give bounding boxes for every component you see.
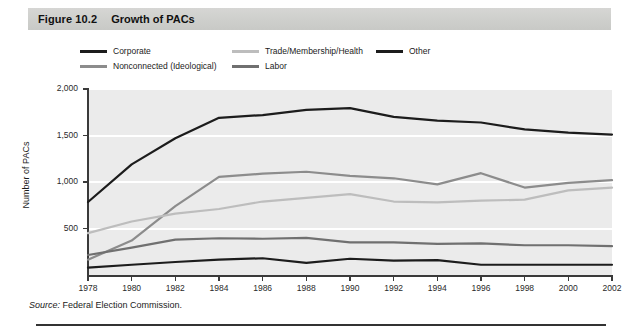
x-tick-label: 1982: [160, 283, 190, 293]
source-note: Source: Federal Election Commission.: [29, 300, 182, 310]
gridline: [88, 181, 612, 183]
x-tick-mark: [306, 276, 308, 281]
y-tick-label: 500: [44, 223, 78, 233]
x-tick-label: 1980: [117, 283, 147, 293]
gridline: [88, 88, 612, 90]
x-tick-mark: [568, 276, 570, 281]
x-tick-mark: [480, 276, 482, 281]
gridline: [88, 228, 612, 230]
x-tick-label: 1988: [291, 283, 321, 293]
x-tick-mark: [87, 276, 89, 281]
x-tick-mark: [524, 276, 526, 281]
y-axis-title: Number of PACs: [21, 120, 31, 230]
x-tick-mark: [611, 276, 613, 281]
x-tick-label: 1990: [335, 283, 365, 293]
chart-plot-area: Number of PACs 5001,0001,5002,000 197819…: [0, 0, 637, 332]
x-tick-label: 1992: [379, 283, 409, 293]
x-tick-label: 1978: [73, 283, 103, 293]
y-tick-mark: [83, 181, 88, 183]
y-tick-mark: [83, 135, 88, 137]
y-tick-mark: [83, 228, 88, 230]
x-tick-mark: [437, 276, 439, 281]
y-tick-label: 2,000: [44, 83, 78, 93]
x-tick-mark: [393, 276, 395, 281]
x-tick-mark: [262, 276, 264, 281]
bottom-divider: [36, 324, 606, 326]
x-tick-label: 1986: [248, 283, 278, 293]
x-tick-mark: [131, 276, 133, 281]
source-text: Federal Election Commission.: [60, 300, 182, 310]
x-tick-mark: [175, 276, 177, 281]
y-tick-label: 1,000: [44, 176, 78, 186]
x-tick-label: 2000: [553, 283, 583, 293]
gridline: [88, 135, 612, 137]
y-tick-label: 1,500: [44, 130, 78, 140]
x-tick-mark: [349, 276, 351, 281]
x-tick-label: 1984: [204, 283, 234, 293]
y-tick-mark: [83, 88, 88, 90]
source-label: Source:: [29, 300, 60, 310]
x-tick-mark: [218, 276, 220, 281]
x-tick-label: 1998: [510, 283, 540, 293]
x-tick-label: 1994: [422, 283, 452, 293]
x-tick-label: 2002: [597, 283, 627, 293]
x-tick-label: 1996: [466, 283, 496, 293]
